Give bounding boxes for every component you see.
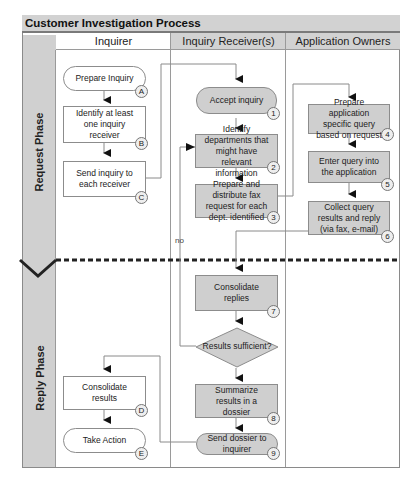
node-prepare-query[interactable]: Prepare application specific query based… bbox=[308, 104, 390, 134]
node-consolidate-results[interactable]: Consolidate results bbox=[63, 376, 146, 410]
node-label: Take Action bbox=[83, 435, 126, 446]
badge-3: 3 bbox=[267, 211, 280, 224]
node-prepare-fax[interactable]: Prepare and distribute fax request for e… bbox=[195, 184, 278, 218]
node-prepare-inquiry[interactable]: Prepare Inquiry bbox=[63, 66, 146, 91]
node-send-inquiry[interactable]: Send inquiry to each receiver bbox=[63, 161, 146, 197]
badge-A: A bbox=[135, 85, 148, 98]
badge-E: E bbox=[135, 447, 148, 460]
node-label: Summarize results in a dossier bbox=[202, 385, 271, 418]
node-collect-results[interactable]: Collect query results and reply (via fax… bbox=[308, 201, 390, 235]
badge-6: 6 bbox=[381, 230, 394, 243]
node-label: Prepare and distribute fax request for e… bbox=[202, 179, 271, 223]
badge-C: C bbox=[135, 191, 148, 204]
badge-B: B bbox=[135, 137, 148, 150]
badge-5: 5 bbox=[381, 178, 394, 191]
node-label: Enter query into the application bbox=[315, 156, 383, 178]
node-label: Consolidate results bbox=[70, 382, 139, 404]
node-label: Consolidate replies bbox=[202, 282, 271, 304]
node-label: Send inquiry to each receiver bbox=[70, 168, 139, 190]
node-label: Send dossier to inquirer bbox=[201, 433, 273, 455]
badge-7: 7 bbox=[267, 305, 280, 318]
badge-9: 9 bbox=[267, 447, 280, 460]
decision-no-label: no bbox=[175, 236, 184, 245]
node-identify-receiver[interactable]: Identify at least one inquiry receiver bbox=[63, 106, 146, 143]
badge-4: 4 bbox=[381, 128, 394, 141]
node-label: Prepare application specific query based… bbox=[315, 97, 383, 141]
node-identify-departments[interactable]: Identify departments that might have rel… bbox=[195, 134, 278, 168]
node-consolidate-replies[interactable]: Consolidate replies bbox=[195, 275, 278, 311]
node-label: Prepare Inquiry bbox=[75, 73, 133, 84]
badge-8: 8 bbox=[267, 412, 280, 425]
badge-D: D bbox=[135, 404, 148, 417]
decision-label: Results sufficient? bbox=[195, 341, 279, 351]
node-label: Identify departments that might have rel… bbox=[202, 124, 271, 179]
node-summarize-results[interactable]: Summarize results in a dossier bbox=[195, 384, 278, 418]
badge-1: 1 bbox=[267, 107, 280, 120]
node-label: Collect query results and reply (via fax… bbox=[312, 202, 386, 235]
badge-2: 2 bbox=[267, 161, 280, 174]
node-enter-query[interactable]: Enter query into the application bbox=[308, 151, 390, 183]
node-accept-inquiry[interactable]: Accept inquiry bbox=[196, 87, 277, 114]
node-take-action[interactable]: Take Action bbox=[63, 428, 146, 453]
node-label: Identify at least one inquiry receiver bbox=[70, 108, 139, 141]
node-send-dossier[interactable]: Send dossier to inquirer bbox=[196, 433, 278, 455]
node-label: Accept inquiry bbox=[210, 95, 263, 106]
